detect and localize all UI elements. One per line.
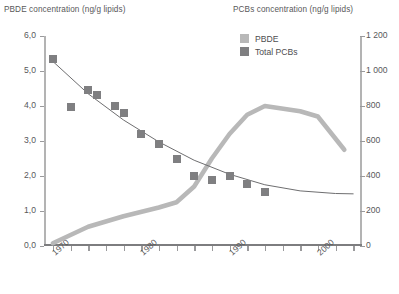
left-tick-label: 4,0 <box>10 100 36 110</box>
chart-canvas: PBDE concentration (ng/g lipids) PCBs co… <box>0 0 399 294</box>
right-tick-label: 0 <box>366 240 399 250</box>
right-tick-label: 800 <box>366 100 399 110</box>
right-axis-title: PCBs concentration (ng/g lipids) <box>233 5 353 14</box>
x-tick <box>353 246 354 251</box>
pcb-data-marker <box>120 109 128 117</box>
pcb-data-marker <box>84 86 92 94</box>
pcb-data-marker <box>243 180 251 188</box>
pcb-data-marker <box>261 188 269 196</box>
left-tick-label: 3,0 <box>10 135 36 145</box>
right-tick-label: 400 <box>366 170 399 180</box>
left-tick-label: 1,0 <box>10 205 36 215</box>
x-tick <box>106 246 107 251</box>
x-tick <box>159 246 160 251</box>
series-layer <box>44 36 362 246</box>
pcb-data-marker <box>155 140 163 148</box>
x-tick <box>212 246 213 251</box>
right-tick-label: 1 000 <box>366 65 399 75</box>
pcb-data-marker <box>208 176 216 184</box>
x-tick <box>177 246 178 251</box>
left-axis-title: PBDE concentration (ng/g lipids) <box>4 5 126 14</box>
pcb-data-marker <box>137 130 145 138</box>
pcb-data-marker <box>111 102 119 110</box>
pcb-data-marker <box>226 172 234 180</box>
left-tick <box>40 246 45 247</box>
left-tick-label: 0,0 <box>10 240 36 250</box>
x-tick <box>283 246 284 251</box>
x-tick <box>265 246 266 251</box>
pbde-line-series <box>53 106 345 243</box>
pcb-data-marker <box>93 91 101 99</box>
pcb-data-marker <box>67 103 75 111</box>
pcb-data-marker <box>190 172 198 180</box>
plot-area: 0,01,02,03,04,05,06,0 02004006008001 000… <box>44 36 362 246</box>
x-tick <box>71 246 72 251</box>
right-tick <box>360 246 365 247</box>
x-tick <box>124 246 125 251</box>
left-tick-label: 2,0 <box>10 170 36 180</box>
left-tick-label: 6,0 <box>10 30 36 40</box>
right-tick-label: 200 <box>366 205 399 215</box>
x-tick <box>247 246 248 251</box>
x-tick <box>336 246 337 251</box>
x-tick <box>300 246 301 251</box>
x-tick <box>88 246 89 251</box>
right-tick-label: 1 200 <box>366 30 399 40</box>
x-tick <box>194 246 195 251</box>
right-tick-label: 600 <box>366 135 399 145</box>
left-tick-label: 5,0 <box>10 65 36 75</box>
pcb-data-marker <box>49 55 57 63</box>
pcb-data-marker <box>173 155 181 163</box>
